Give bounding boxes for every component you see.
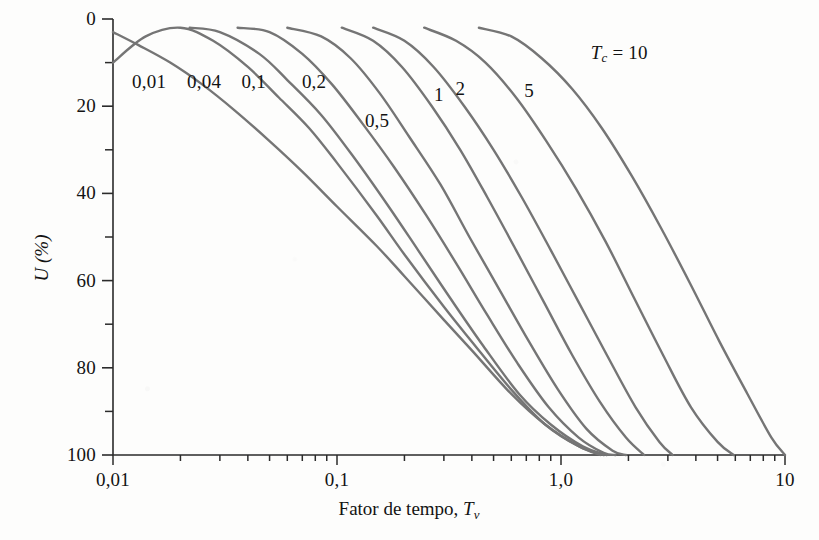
chart-plot-area (0, 0, 819, 540)
x-axis-title: Fator de tempo, Tv (339, 498, 480, 523)
curve-group-equals: = (607, 42, 628, 63)
curve-label-2: 2 (455, 78, 465, 100)
x-tick-label-2: 1,0 (549, 469, 573, 491)
y-tick-label-5: 100 (38, 444, 96, 466)
y-axis-title-text: U (%) (31, 235, 52, 282)
curve-series-1 (342, 28, 644, 455)
curve-label-0,04: 0,04 (187, 71, 221, 93)
x-axis-title-symbol: T (463, 498, 474, 519)
curve-group-value: 10 (628, 42, 647, 63)
curve-label-5: 5 (524, 80, 534, 102)
y-tick-label-2: 40 (38, 182, 96, 204)
y-tick-label-1: 20 (38, 95, 96, 117)
y-axis-title: U (%) (31, 235, 53, 282)
x-axis-title-text: Fator de tempo, (339, 498, 464, 519)
curve-label-0,1: 0,1 (242, 71, 266, 93)
x-axis-ticks (113, 455, 785, 465)
curve-label-10: Tc = 10 (591, 42, 648, 67)
curve-label-0,2: 0,2 (302, 71, 326, 93)
consolidation-chart-figure: 0,010,11,010 020406080100 0,010,040,10,2… (0, 0, 819, 540)
y-tick-label-0: 0 (38, 8, 96, 30)
curve-label-0,5: 0,5 (365, 110, 389, 132)
y-axis-ticks (102, 19, 113, 455)
curve-group-symbol: T (591, 42, 602, 63)
curve-label-0,01: 0,01 (132, 71, 166, 93)
x-tick-label-0: 0,01 (96, 469, 130, 491)
x-tick-label-1: 0,1 (325, 469, 349, 491)
x-tick-label-3: 10 (775, 469, 794, 491)
y-tick-label-4: 80 (38, 357, 96, 379)
curve-series-2 (373, 28, 672, 455)
x-axis-title-subscript: v (474, 507, 480, 522)
curve-label-1: 1 (434, 84, 444, 106)
